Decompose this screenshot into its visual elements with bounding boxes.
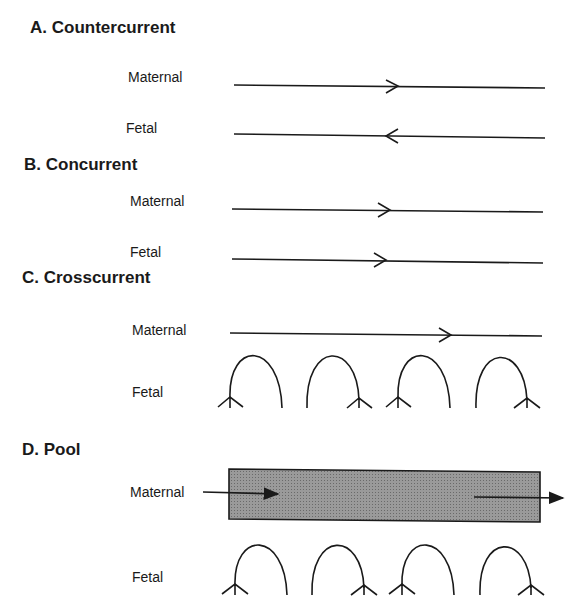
b-fetal-flow [232,259,543,263]
d-fetal-loops [222,545,544,595]
pool-outflow-arrow-icon [474,497,563,498]
b-fetal-arrow-icon [374,253,386,267]
c-fetal-loops [218,356,540,408]
c-maternal-flow [230,333,542,336]
pool-chamber [229,469,540,522]
flow-diagram [0,0,582,607]
a-maternal-flow [234,85,545,88]
